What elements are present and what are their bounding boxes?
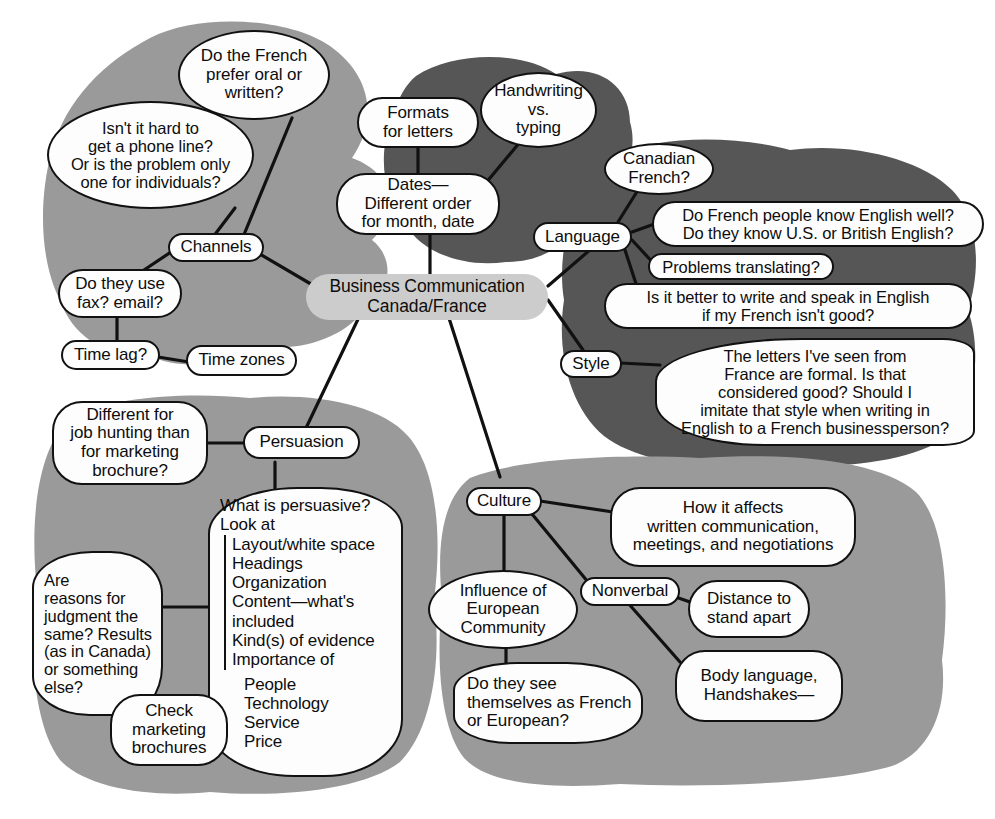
node-influence-european-community[interactable]: Influence of European Community: [428, 570, 578, 649]
node-style[interactable]: Style: [560, 350, 622, 378]
node-are-reasons[interactable]: Are reasons for judgment the same? Resul…: [32, 551, 163, 716]
node-body-language[interactable]: Body language, Handshakes—: [675, 650, 843, 722]
node-language[interactable]: Language: [533, 222, 632, 252]
node-do-the-french[interactable]: Do the French prefer oral or written?: [178, 30, 330, 120]
persuasive-sub-items: People Technology Service Price: [244, 675, 391, 752]
node-persuasion[interactable]: Persuasion: [243, 426, 360, 459]
node-the-letters[interactable]: The letters I've seen from France are fo…: [655, 338, 975, 446]
node-dates[interactable]: Dates— Different order for month, date: [336, 173, 500, 235]
node-do-french-people[interactable]: Do French people know English well? Do t…: [652, 201, 984, 247]
node-nonverbal[interactable]: Nonverbal: [580, 577, 680, 606]
node-what-is-persuasive[interactable]: What is persuasive? Look at Layout/white…: [208, 487, 403, 777]
node-distance-to-stand-apart[interactable]: Distance to stand apart: [688, 580, 810, 638]
node-check-marketing[interactable]: Check marketing brochures: [110, 694, 228, 766]
node-time-zones[interactable]: Time zones: [186, 345, 297, 376]
center-node[interactable]: Business Communication Canada/France: [306, 274, 548, 320]
node-channels[interactable]: Channels: [168, 233, 264, 262]
node-canadian-french[interactable]: Canadian French?: [604, 143, 714, 195]
node-time-lag[interactable]: Time lag?: [61, 340, 160, 370]
node-problems-translating[interactable]: Problems translating?: [648, 253, 834, 280]
node-is-it-better[interactable]: Is it better to write and speak in Engli…: [604, 283, 972, 329]
persuasive-items: Layout/white space Headings Organization…: [224, 535, 391, 670]
node-different-for-job[interactable]: Different for job hunting than for marke…: [52, 401, 208, 485]
node-culture[interactable]: Culture: [466, 487, 542, 516]
node-formats-for-letters[interactable]: Formats for letters: [357, 97, 479, 148]
node-isnt-it-hard[interactable]: Isn't it hard to get a phone line? Or is…: [47, 101, 254, 209]
node-do-they-use-fax[interactable]: Do they use fax? email?: [58, 269, 182, 318]
node-do-they-see[interactable]: Do they see themselves as French or Euro…: [453, 662, 643, 744]
persuasive-heading: What is persuasive? Look at: [220, 496, 391, 535]
mindmap-canvas: Business Communication Canada/France Do …: [0, 0, 995, 819]
node-handwriting-vs-typing[interactable]: Handwriting vs. typing: [480, 72, 597, 148]
node-how-it-affects[interactable]: How it affects written communication, me…: [610, 487, 856, 567]
